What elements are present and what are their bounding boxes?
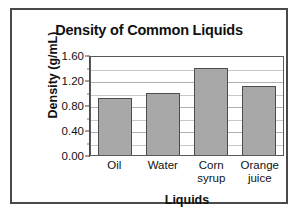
chart-frame: Density of Common Liquids Density (g/mL)… bbox=[10, 8, 288, 204]
x-tick-label: Orangejuice bbox=[236, 159, 285, 191]
bar[interactable] bbox=[242, 86, 276, 155]
bar-series bbox=[91, 57, 283, 155]
bar[interactable] bbox=[146, 93, 180, 156]
x-tick-label-line: syrup bbox=[187, 172, 236, 185]
y-tick-label: 0.00 bbox=[62, 150, 84, 162]
x-tick-label-line: Corn bbox=[187, 159, 236, 172]
bar-slot bbox=[187, 57, 235, 155]
x-tick-label-line: Orange bbox=[236, 159, 285, 172]
y-axis: 0.000.400.801.201.60 bbox=[60, 50, 90, 162]
y-tick-label: 0.40 bbox=[62, 125, 84, 137]
x-tick-label: Oil bbox=[90, 159, 139, 191]
x-tick-label-line: Water bbox=[139, 159, 188, 172]
x-axis-label: Liquids bbox=[90, 193, 284, 207]
x-tick-label: Cornsyrup bbox=[187, 159, 236, 191]
bar-slot bbox=[139, 57, 187, 155]
x-tick-label: Water bbox=[139, 159, 188, 191]
y-axis-label: Density (g/mL) bbox=[46, 20, 60, 130]
y-tick-label: 0.80 bbox=[62, 100, 84, 112]
x-tick-label-line: juice bbox=[236, 172, 285, 185]
bar[interactable] bbox=[98, 98, 132, 156]
x-axis-tick-labels: OilWaterCornsyrupOrangejuice bbox=[90, 159, 284, 191]
bar-slot bbox=[235, 57, 283, 155]
x-tick-label-line: Oil bbox=[90, 159, 139, 172]
bar-slot bbox=[91, 57, 139, 155]
y-tick-label: 1.60 bbox=[62, 50, 84, 62]
bar[interactable] bbox=[194, 68, 228, 156]
y-tick-label: 1.20 bbox=[62, 75, 84, 87]
plot-area bbox=[90, 56, 284, 156]
